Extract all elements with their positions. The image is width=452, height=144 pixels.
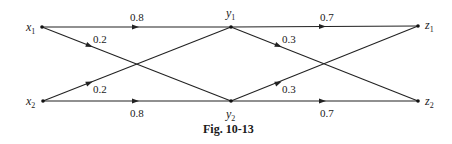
arrow-icon: [319, 24, 326, 29]
edge-label-x1-y1: 0.8: [130, 12, 144, 23]
arrow-icon: [319, 99, 326, 104]
edge-label-x2-y2: 0.8: [130, 108, 144, 119]
node-label-y1: y1: [226, 7, 235, 22]
node-label-x2: x2: [26, 95, 35, 110]
node-dot-z1: [416, 24, 420, 28]
node-dot-z2: [416, 99, 420, 103]
node-dot-x2: [41, 99, 45, 103]
edge-label-x1-y2: 0.2: [93, 34, 107, 45]
node-label-z2: z2: [425, 95, 434, 110]
edge-label-y1-z2: 0.3: [282, 34, 296, 45]
node-dot-x1: [40, 25, 44, 29]
edge-label-x2-y1: 0.2: [93, 84, 107, 95]
node-sub: 1: [430, 25, 434, 34]
node-sub: 2: [31, 101, 35, 110]
node-dot-y2: [229, 99, 233, 103]
edge-label-y1-z1: 0.7: [320, 12, 334, 23]
edge-label-y2-z2: 0.7: [320, 108, 334, 119]
arrow-icon: [132, 99, 139, 104]
node-label-x1: x1: [26, 21, 35, 36]
figure-caption: Fig. 10-13: [203, 122, 254, 137]
node-dot-y1: [229, 25, 233, 29]
node-label-z1: z1: [425, 19, 434, 34]
edge-label-y2-z1: 0.3: [282, 84, 296, 95]
node-sub: 1: [231, 13, 235, 22]
node-sub: 2: [430, 101, 434, 110]
node-sub: 1: [31, 27, 35, 36]
arrow-icon: [132, 25, 139, 30]
